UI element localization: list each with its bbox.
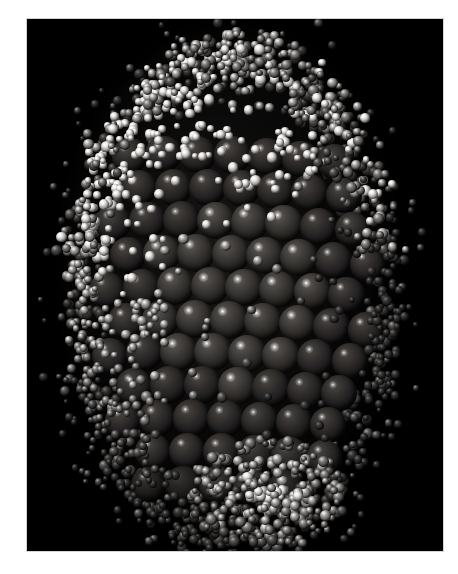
shell-atom bbox=[375, 400, 383, 408]
shell-atom bbox=[231, 507, 239, 515]
shell-atom bbox=[273, 468, 283, 478]
shell-atom bbox=[160, 338, 169, 347]
shell-atom bbox=[360, 113, 370, 123]
shell-atom bbox=[181, 63, 188, 70]
shell-atom bbox=[206, 544, 213, 551]
shell-atom bbox=[80, 306, 89, 315]
shell-atom bbox=[300, 401, 309, 410]
shell-atom bbox=[364, 298, 371, 305]
shell-atom bbox=[146, 519, 153, 526]
shell-atom-outlier bbox=[413, 385, 419, 391]
shell-atom bbox=[286, 145, 294, 153]
shell-atom bbox=[148, 69, 157, 78]
shell-atom bbox=[218, 514, 225, 521]
shell-atom bbox=[364, 345, 374, 355]
shell-atom bbox=[63, 299, 72, 308]
shell-atom bbox=[160, 329, 168, 337]
shell-atom bbox=[102, 323, 110, 331]
shell-atom bbox=[357, 440, 364, 447]
shell-atom bbox=[113, 96, 122, 105]
shell-atom bbox=[282, 526, 291, 535]
shell-atom bbox=[116, 456, 125, 465]
shell-atom bbox=[306, 520, 312, 526]
shell-atom bbox=[93, 191, 101, 199]
shell-atom bbox=[382, 296, 392, 306]
shell-atom-outlier bbox=[64, 399, 69, 404]
shell-atom bbox=[188, 368, 197, 377]
shell-atom bbox=[210, 74, 217, 81]
shell-atom bbox=[244, 204, 251, 211]
shell-atom bbox=[134, 500, 141, 507]
shell-atom bbox=[165, 143, 174, 152]
shell-atom bbox=[250, 175, 260, 185]
shell-atom-outlier bbox=[159, 22, 164, 27]
shell-atom bbox=[165, 77, 176, 88]
shell-atom bbox=[213, 19, 223, 28]
shell-atom bbox=[185, 109, 195, 119]
shell-atom bbox=[144, 65, 150, 71]
shell-atom bbox=[81, 214, 91, 224]
shell-atom bbox=[161, 398, 168, 405]
shell-atom bbox=[162, 481, 169, 488]
shell-atom bbox=[377, 325, 383, 331]
shell-atom bbox=[248, 516, 255, 523]
shell-atom bbox=[71, 377, 78, 384]
shell-atom bbox=[368, 189, 378, 199]
shell-atom-outlier bbox=[417, 244, 424, 251]
shell-atom bbox=[346, 182, 357, 193]
shell-atom-outlier bbox=[63, 161, 70, 168]
shell-atom bbox=[267, 212, 277, 222]
shell-atom-outlier bbox=[50, 183, 57, 190]
shell-atom bbox=[270, 438, 277, 445]
shell-atom bbox=[146, 160, 153, 167]
shell-atom-outlier bbox=[126, 64, 134, 72]
shell-atom bbox=[329, 278, 336, 285]
core-atom bbox=[207, 400, 244, 437]
shell-atom bbox=[234, 180, 243, 189]
shell-atom bbox=[322, 372, 330, 380]
shell-atom bbox=[90, 384, 97, 391]
shell-atom bbox=[249, 461, 257, 469]
shell-atom bbox=[73, 325, 80, 332]
molecular-render-panel bbox=[27, 19, 443, 551]
shell-atom bbox=[225, 499, 234, 508]
shell-atom bbox=[134, 69, 144, 79]
shell-atom bbox=[215, 486, 222, 493]
shell-atom bbox=[85, 177, 91, 183]
core-atom bbox=[241, 402, 278, 439]
shell-atom bbox=[97, 366, 104, 373]
shell-atom bbox=[58, 217, 65, 224]
shell-atom-outlier bbox=[86, 451, 90, 455]
shell-atom-outlier bbox=[413, 322, 418, 327]
shell-atom bbox=[65, 209, 76, 220]
shell-atom bbox=[351, 160, 361, 170]
shell-atom bbox=[88, 400, 97, 409]
shell-atom bbox=[109, 447, 118, 456]
shell-atom bbox=[106, 265, 114, 273]
shell-atom bbox=[264, 393, 272, 401]
shell-atom bbox=[158, 151, 165, 158]
shell-atom bbox=[191, 510, 199, 518]
shell-atom bbox=[154, 161, 162, 169]
shell-atom bbox=[361, 239, 371, 249]
shell-atom bbox=[211, 503, 218, 510]
shell-atom bbox=[217, 62, 225, 70]
shell-atom bbox=[337, 227, 344, 234]
shell-atom bbox=[345, 146, 351, 152]
shell-atom bbox=[120, 140, 130, 150]
shell-atom bbox=[329, 168, 339, 178]
shell-atom bbox=[354, 455, 363, 464]
shell-atom bbox=[146, 477, 153, 484]
shell-atom bbox=[103, 467, 112, 476]
shell-atom bbox=[274, 38, 283, 47]
shell-atom bbox=[117, 439, 125, 447]
shell-atom bbox=[337, 506, 347, 516]
shell-atom bbox=[147, 205, 155, 213]
shell-atom bbox=[174, 60, 181, 67]
shell-atom bbox=[151, 308, 158, 315]
shell-atom bbox=[225, 132, 233, 140]
shell-atom bbox=[111, 430, 120, 439]
shell-atom bbox=[384, 350, 392, 358]
shell-atom bbox=[327, 78, 337, 88]
shell-atom bbox=[266, 38, 273, 45]
